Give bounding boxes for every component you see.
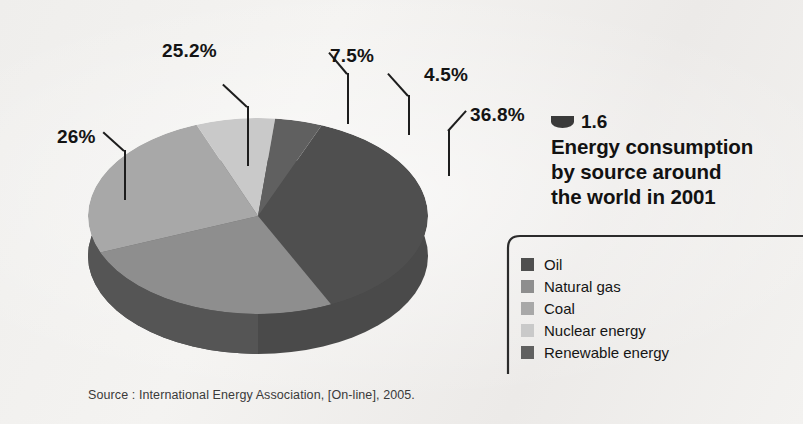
leader-line-renewable-vertical	[408, 95, 410, 135]
legend-label-natural-gas: Natural gas	[544, 278, 621, 295]
leader-line-nuclear-vertical	[347, 73, 349, 124]
pct-label-coal: 25.2%	[162, 40, 217, 62]
figure-marker: 1.6	[551, 112, 607, 131]
pie-chart	[88, 118, 428, 368]
legend-label-coal: Coal	[544, 300, 575, 317]
legend-swatch-coal	[521, 302, 534, 315]
half-circle-icon	[551, 116, 574, 128]
legend-swatch-natural-gas	[521, 280, 534, 293]
figure-title-line-1: Energy consumption	[551, 134, 803, 159]
legend-item-nuclear-energy[interactable]: Nuclear energy	[521, 322, 669, 339]
legend-swatch-oil	[521, 258, 534, 271]
legend: Oil Natural gas Coal Nuclear energy Rene…	[521, 256, 669, 361]
legend-label-renewable-energy: Renewable energy	[544, 344, 669, 361]
figure-title-line-2: by source around	[551, 159, 803, 184]
legend-swatch-nuclear-energy	[521, 324, 534, 337]
figure-container: 25.2% 7.5% 4.5% 36.8% 26% 1.6 Energy con…	[0, 0, 803, 424]
pie-top-face	[88, 118, 428, 314]
figure-title: Energy consumption by source around the …	[551, 134, 803, 209]
pct-label-renewable: 4.5%	[424, 64, 468, 86]
figure-number: 1.6	[581, 112, 607, 131]
legend-item-natural-gas[interactable]: Natural gas	[521, 278, 669, 295]
leader-line-coal-vertical	[247, 106, 249, 166]
pie-slice-group	[88, 118, 428, 314]
leader-line-oil-vertical	[448, 130, 450, 176]
legend-swatch-renewable-energy	[521, 346, 534, 359]
legend-label-nuclear-energy: Nuclear energy	[544, 322, 646, 339]
pie-slices	[88, 118, 428, 314]
legend-item-oil[interactable]: Oil	[521, 256, 669, 273]
figure-title-line-3: the world in 2001	[551, 184, 803, 209]
pct-label-oil: 36.8%	[470, 104, 525, 126]
legend-label-oil: Oil	[544, 256, 562, 273]
source-note: Source : International Energy Associatio…	[88, 388, 415, 402]
legend-item-renewable-energy[interactable]: Renewable energy	[521, 344, 669, 361]
legend-item-coal[interactable]: Coal	[521, 300, 669, 317]
pct-label-gas: 26%	[57, 126, 96, 148]
pct-label-nuclear: 7.5%	[330, 45, 374, 67]
leader-line-gas-vertical	[124, 150, 126, 200]
